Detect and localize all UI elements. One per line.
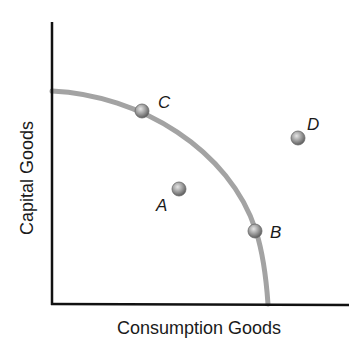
y-axis-label: Capital Goods	[17, 121, 37, 235]
point-c-label: C	[158, 93, 171, 112]
x-axis-label: Consumption Goods	[117, 318, 281, 338]
x-axis	[51, 304, 349, 305]
point-b: B	[248, 223, 281, 242]
point-c: C	[135, 93, 171, 118]
point-d: D	[291, 115, 319, 145]
point-a: A	[155, 182, 186, 215]
point-b-label: B	[270, 223, 281, 242]
ppf-diagram: C A B D Consumption Goods Capital Goods	[0, 0, 360, 348]
point-a-label: A	[155, 196, 167, 215]
point-d-label: D	[307, 115, 319, 134]
